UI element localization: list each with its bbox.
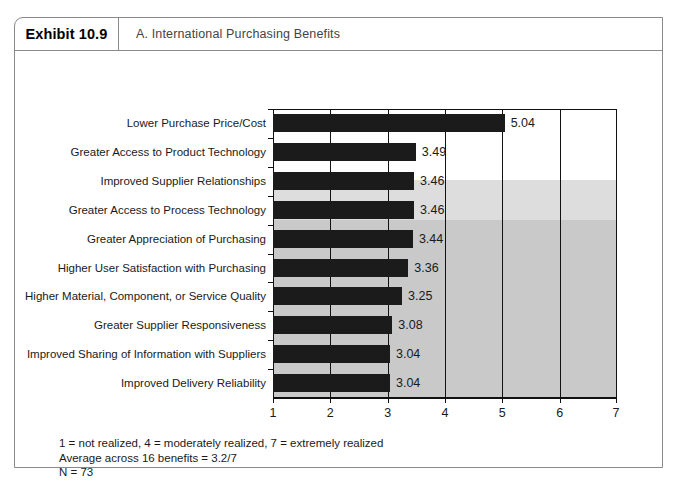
x-axis-tick-label: 2	[327, 406, 334, 420]
y-axis-tick	[268, 254, 273, 255]
bar	[273, 287, 402, 305]
y-axis-tick	[268, 138, 273, 139]
bar	[273, 143, 416, 161]
footnote-line-2: Average across 16 benefits = 3.2/7	[59, 451, 383, 466]
category-label: Improved Sharing of Information with Sup…	[27, 345, 266, 363]
bar-value-label: 3.36	[408, 259, 438, 277]
bar-value-label: 3.46	[414, 201, 444, 219]
x-axis-tick-label: 6	[556, 406, 563, 420]
x-axis-tick-label: 3	[384, 406, 391, 420]
x-axis-tick-7	[616, 398, 617, 403]
exhibit-subtitle: A. International Purchasing Benefits	[119, 27, 340, 41]
category-label: Greater Access to Process Technology	[69, 201, 266, 219]
footnote-line-1: 1 = not realized, 4 = moderately realize…	[59, 436, 383, 451]
bar	[273, 316, 392, 334]
category-label: Higher Material, Component, or Service Q…	[25, 287, 266, 305]
category-label: Greater Appreciation of Purchasing	[87, 230, 266, 248]
y-axis-tick	[268, 196, 273, 197]
y-axis-tick	[268, 167, 273, 168]
y-axis-tick	[268, 340, 273, 341]
bar-value-label: 5.04	[505, 114, 535, 132]
y-axis-tick	[268, 369, 273, 370]
x-axis-tick-6	[560, 398, 561, 403]
bar-row: Higher User Satisfaction with Purchasing…	[273, 254, 617, 283]
bar-row: Lower Purchase Price/Cost5.04	[273, 109, 617, 138]
category-label: Higher User Satisfaction with Purchasing	[58, 259, 266, 277]
footnotes: 1 = not realized, 4 = moderately realize…	[59, 436, 383, 480]
bar-value-label: 3.46	[414, 172, 444, 190]
category-label: Improved Delivery Reliability	[121, 374, 266, 392]
x-axis-tick-label: 1	[270, 406, 277, 420]
category-label: Lower Purchase Price/Cost	[127, 114, 266, 132]
chart-area: Lower Purchase Price/Cost5.04Greater Acc…	[15, 51, 662, 467]
bar-row: Improved Delivery Reliability3.04	[273, 369, 617, 398]
plot-area: Lower Purchase Price/Cost5.04Greater Acc…	[273, 109, 617, 398]
bar-row: Improved Supplier Relationships3.46	[273, 167, 617, 196]
bar	[273, 172, 414, 190]
bar	[273, 345, 390, 363]
bar-value-label: 3.49	[416, 143, 446, 161]
x-axis-tick-4	[445, 398, 446, 403]
bar-value-label: 3.04	[390, 374, 420, 392]
bar	[273, 259, 408, 277]
category-label: Improved Supplier Relationships	[100, 172, 266, 190]
x-axis: 1234567	[273, 398, 617, 424]
bar-row: Greater Access to Product Technology3.49	[273, 138, 617, 167]
bar-row: Improved Sharing of Information with Sup…	[273, 340, 617, 369]
bar-value-label: 3.04	[390, 345, 420, 363]
bar-value-label: 3.25	[402, 287, 432, 305]
category-label: Greater Supplier Responsiveness	[94, 316, 266, 334]
exhibit-number-label: Exhibit 10.9	[15, 18, 119, 50]
exhibit-frame: Exhibit 10.9 A. International Purchasing…	[14, 17, 663, 468]
y-axis-tick	[268, 109, 273, 110]
category-label: Greater Access to Product Technology	[71, 143, 266, 161]
x-axis-tick-5	[502, 398, 503, 403]
x-axis-tick-label: 7	[613, 406, 620, 420]
footnote-line-3: N = 73	[59, 465, 383, 480]
x-axis-tick-2	[330, 398, 331, 403]
bar-value-label: 3.44	[413, 230, 443, 248]
x-axis-tick-label: 5	[499, 406, 506, 420]
bar-row: Higher Material, Component, or Service Q…	[273, 282, 617, 311]
bar	[273, 230, 413, 248]
bar-value-label: 3.08	[392, 316, 422, 334]
bar-row: Greater Access to Process Technology3.46	[273, 196, 617, 225]
y-axis-tick	[268, 311, 273, 312]
bar-row: Greater Appreciation of Purchasing3.44	[273, 225, 617, 254]
y-axis-tick	[268, 225, 273, 226]
x-axis-tick-3	[388, 398, 389, 403]
bar	[273, 201, 414, 219]
exhibit-header: Exhibit 10.9 A. International Purchasing…	[15, 18, 662, 51]
x-axis-tick-1	[273, 398, 274, 403]
y-axis-tick	[268, 282, 273, 283]
bar	[273, 374, 390, 392]
bar-row: Greater Supplier Responsiveness3.08	[273, 311, 617, 340]
x-axis-tick-label: 4	[442, 406, 449, 420]
bar	[273, 114, 505, 132]
